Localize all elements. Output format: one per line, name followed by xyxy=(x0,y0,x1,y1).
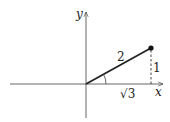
diagram-canvas: y x 2 1 √3 xyxy=(0,0,170,122)
adjacent-label: √3 xyxy=(120,87,135,101)
opposite-label: 1 xyxy=(153,61,161,75)
endpoint-dot xyxy=(148,45,153,50)
hypotenuse-label: 2 xyxy=(117,50,125,64)
y-axis-label: y xyxy=(75,7,83,21)
x-axis-label: x xyxy=(155,85,162,99)
angle-arc xyxy=(104,74,107,84)
